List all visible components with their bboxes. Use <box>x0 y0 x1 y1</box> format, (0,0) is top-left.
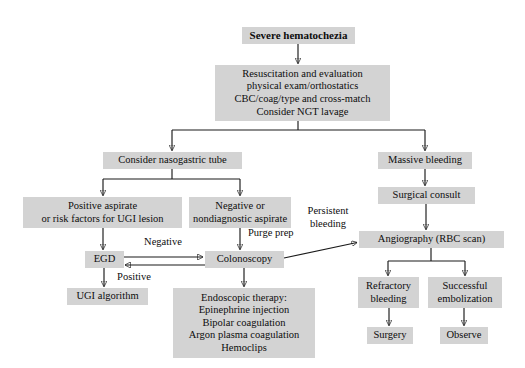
edge-label-negative: Negative <box>138 236 188 249</box>
edge-resuscitation-split <box>172 121 425 151</box>
node-egd: EGD <box>85 251 124 268</box>
node-negative-aspirate: Negative or nondiagnostic aspirate <box>189 197 291 228</box>
edge-colonoscopy-to-angiography-persistent <box>284 243 357 259</box>
edge-label-positive: Positive <box>112 271 156 284</box>
node-surgical-consult: Surgical consult <box>378 187 475 204</box>
node-resuscitation: Resuscitation and evaluation physical ex… <box>215 65 390 121</box>
node-severe-hematochezia: Severe hematochezia <box>242 27 355 44</box>
node-observe: Observe <box>440 327 488 344</box>
edge-angiography-split <box>388 248 465 276</box>
node-colonoscopy: Colonoscopy <box>205 251 284 268</box>
node-surgery: Surgery <box>367 327 413 344</box>
node-massive-bleeding: Massive bleeding <box>378 152 472 169</box>
node-consider-nasogastric-tube: Consider nasogastric tube <box>103 152 242 169</box>
edge-label-purge-prep: Purge prep <box>248 227 306 240</box>
flowchart-canvas: Severe hematochezia Resuscitation and ev… <box>0 0 525 368</box>
node-angiography: Angiography (RBC scan) <box>359 231 504 248</box>
edge-ngtube-split <box>103 169 240 196</box>
node-ugi-algorithm: UGI algorithm <box>67 288 148 305</box>
node-positive-aspirate: Positive aspirate or risk factors for UG… <box>23 197 182 228</box>
node-endoscopic-therapy: Endoscopic therapy: Epinephrine injectio… <box>173 288 315 358</box>
node-successful-embolization: Successful embolization <box>428 277 502 308</box>
node-refractory-bleeding: Refractory bleeding <box>358 277 419 308</box>
edge-label-persistent-bleeding: Persistent bleeding <box>306 205 350 230</box>
